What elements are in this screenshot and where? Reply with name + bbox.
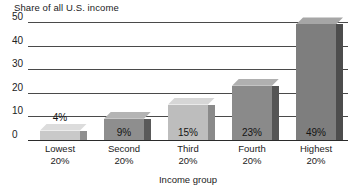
category-label-line2: 20% [284, 155, 348, 167]
category-label-line2: 20% [92, 155, 156, 167]
bar-front-face [168, 105, 208, 140]
bar[interactable] [40, 131, 80, 140]
y-axis-tick-label: 30 [12, 58, 28, 69]
bar-side-face [208, 105, 215, 140]
bar[interactable]: 23% [232, 86, 272, 140]
bar-top-face [296, 17, 343, 24]
bar-slot: 49% [284, 22, 348, 140]
bar-front-face [40, 131, 80, 140]
category-label-line1: Second [108, 143, 140, 154]
y-axis-title: Share of all U.S. income [14, 2, 119, 13]
x-axis-category-label: Lowest20% [28, 143, 92, 167]
plot-area: 4%9%15%23%49% [28, 22, 348, 140]
bar-top-face [168, 98, 215, 105]
x-axis-category-label: Highest20% [284, 143, 348, 167]
gridline [28, 140, 348, 141]
bar-slot: 4% [28, 22, 92, 140]
bar-slot: 23% [220, 22, 284, 140]
y-axis-tick-label: 40 [12, 35, 28, 46]
bar[interactable]: 15% [168, 105, 208, 140]
y-axis-tick-label: 0 [12, 129, 28, 140]
bar-front-face [232, 86, 272, 140]
category-label-line2: 20% [220, 155, 284, 167]
category-label-line2: 20% [28, 155, 92, 167]
y-axis-tick-label: 10 [12, 105, 28, 116]
bar-chart: Share of all U.S. income 4%9%15%23%49% 5… [0, 0, 363, 192]
x-axis-category-label: Second20% [92, 143, 156, 167]
bar-series: 4%9%15%23%49% [28, 22, 348, 140]
x-axis-title: Income group [28, 174, 348, 185]
x-axis-category-label: Third20% [156, 143, 220, 167]
bar-front-face [296, 24, 336, 140]
bar-side-face [336, 24, 343, 140]
bar-top-face [40, 124, 87, 131]
x-axis-category-labels: Lowest20%Second20%Third20%Fourth20%Highe… [28, 143, 348, 173]
bar-top-face [104, 112, 151, 119]
bar[interactable]: 9% [104, 119, 144, 140]
x-axis-category-label: Fourth20% [220, 143, 284, 167]
bar-side-face [272, 86, 279, 140]
category-label-line1: Lowest [45, 143, 75, 154]
bar-front-face [104, 119, 144, 140]
y-axis-tick-label: 20 [12, 82, 28, 93]
bar-slot: 9% [92, 22, 156, 140]
bar-top-face [232, 79, 279, 86]
y-axis-tick-label: 50 [12, 11, 28, 22]
bar-side-face [144, 119, 151, 140]
category-label-line1: Fourth [238, 143, 265, 154]
bar-value-label: 4% [40, 112, 80, 123]
category-label-line1: Highest [300, 143, 332, 154]
category-label-line2: 20% [156, 155, 220, 167]
bar-side-face [80, 131, 87, 140]
bar[interactable]: 49% [296, 24, 336, 140]
bar-slot: 15% [156, 22, 220, 140]
category-label-line1: Third [177, 143, 199, 154]
